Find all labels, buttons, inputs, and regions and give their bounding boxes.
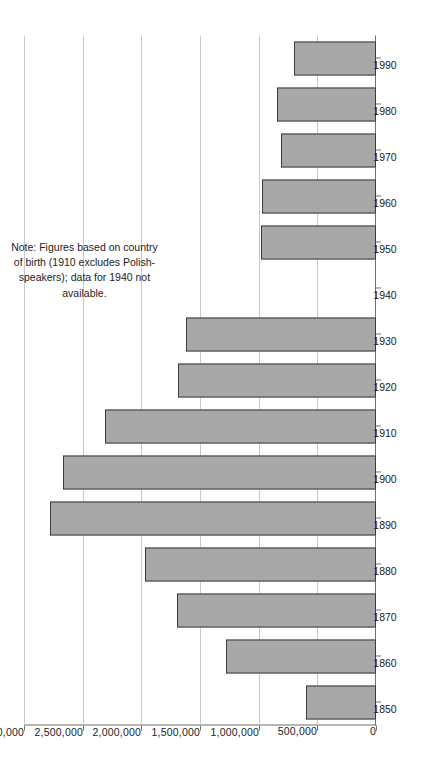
category-axis-tick-label: 1980: [373, 104, 396, 116]
value-tick: [141, 725, 142, 730]
bar: [226, 639, 376, 672]
value-axis-tick-label: 0: [370, 725, 376, 737]
category-axis-tick-label: 1860: [373, 656, 396, 668]
bar: [306, 685, 376, 718]
category-axis-tick-label: 1960: [373, 196, 396, 208]
gridline: [83, 35, 84, 725]
value-tick: [200, 725, 201, 730]
gridline: [141, 35, 142, 725]
plot-area: 0500,0001,000,0001,500,0002,000,0002,500…: [24, 35, 376, 725]
category-axis-tick-label: 1940: [373, 288, 396, 300]
bar: [63, 455, 376, 488]
value-axis-tick-label: 3,000,000: [0, 725, 24, 737]
category-axis-tick-label: 1890: [373, 518, 396, 530]
category-axis-tick-label: 1970: [373, 150, 396, 162]
bar: [177, 593, 376, 626]
bar: [105, 409, 376, 442]
bar: [178, 363, 376, 396]
value-axis-tick-label: 2,500,000: [34, 725, 83, 737]
value-axis-tick-label: 1,500,000: [151, 725, 200, 737]
bar: [145, 547, 376, 580]
bar: [262, 179, 376, 212]
rotated-page-container: 0500,0001,000,0001,500,0002,000,0002,500…: [0, 0, 426, 769]
value-tick: [376, 725, 377, 730]
category-axis-tick-label: 1950: [373, 242, 396, 254]
category-axis-tick-label: 1910: [373, 426, 396, 438]
bar: [277, 87, 376, 120]
chart-note: Note: Figures based on country of birth …: [6, 239, 162, 300]
value-tick: [317, 725, 318, 730]
bar: [261, 225, 376, 258]
bar-chart-figure: 0500,0001,000,0001,500,0002,000,0002,500…: [0, 0, 426, 769]
bar: [50, 501, 376, 534]
bar: [186, 317, 376, 350]
value-axis-tick-label: 2,000,000: [93, 725, 142, 737]
category-axis-tick-label: 1850: [373, 702, 396, 714]
category-axis-tick-label: 1930: [373, 334, 396, 346]
category-axis-tick-label: 1880: [373, 564, 396, 576]
value-tick: [24, 725, 25, 730]
category-axis-tick-label: 1990: [373, 58, 396, 70]
category-axis-tick-label: 1920: [373, 380, 396, 392]
gridline: [24, 35, 25, 725]
category-axis-tick-label: 1870: [373, 610, 396, 622]
value-axis-tick-label: 1,000,000: [210, 725, 259, 737]
category-axis-tick-label: 1900: [373, 472, 396, 484]
bar: [294, 41, 376, 74]
value-axis-tick-label: 500,000: [278, 725, 317, 737]
bar: [281, 133, 376, 166]
